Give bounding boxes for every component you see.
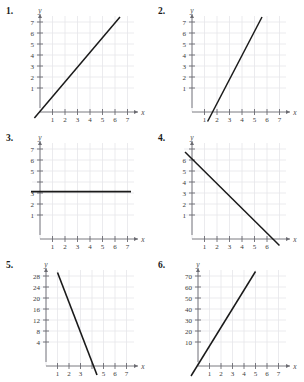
x-tick-labels-1: 1 2 3 4 5 6 7 — [51, 116, 130, 124]
x-tick-label: 3 — [76, 243, 80, 251]
y-tick-label: 8 — [37, 328, 41, 336]
y-tick-label: 1 — [183, 212, 187, 220]
problem-number-1: 1. — [6, 6, 13, 16]
problem-number-4: 4. — [158, 133, 165, 143]
x-tick-label: 2 — [215, 116, 219, 124]
x-axis-label: x — [292, 362, 297, 371]
x-axis-arrow-6 — [286, 364, 290, 368]
y-tick-label: 6 — [31, 157, 35, 165]
x-tick-label: 6 — [265, 370, 269, 378]
x-tick-labels-6: 1 2 3 4 5 6 7 — [208, 370, 281, 378]
y-tick-label: 2 — [31, 74, 35, 82]
y-tick-labels-6: 10 20 30 40 50 60 70 — [185, 273, 193, 347]
x-tick-labels-4: 1 2 3 4 5 6 — [203, 243, 270, 251]
y-axis-label: y — [43, 262, 48, 269]
x-tick-label: 4 — [242, 370, 246, 378]
y-tick-label: 2 — [183, 201, 187, 209]
x-tick-label: 6 — [113, 243, 117, 251]
y-tick-label: 4 — [37, 339, 41, 347]
x-tick-label: 2 — [63, 116, 67, 124]
gridlines-1 — [32, 16, 134, 112]
x-axis-label: x — [140, 362, 145, 371]
y-tick-label: 7 — [183, 19, 187, 27]
gridlines-4 — [184, 143, 286, 239]
x-tick-label: 5 — [102, 370, 106, 378]
axes-2 — [190, 14, 290, 114]
x-tick-labels-3: 1 2 3 4 5 6 7 — [51, 243, 130, 251]
axes-1 — [38, 14, 138, 114]
y-tick-label: 20 — [185, 328, 193, 336]
y-tick-label: 5 — [31, 41, 35, 49]
coordinate-plane-1: 1 2 3 4 5 6 7 1 2 3 4 5 6 7 x — [26, 8, 148, 124]
y-tick-label: 3 — [31, 63, 35, 71]
y-tick-labels-3: 1 2 3 5 6 7 — [31, 146, 35, 220]
y-tick-label: 6 — [183, 157, 187, 165]
y-axis-label: y — [37, 8, 42, 15]
x-tick-label: 1 — [203, 116, 207, 124]
exercise-sheet: 1. — [0, 0, 304, 382]
y-tick-label: 50 — [185, 295, 193, 303]
y-tick-label: 4 — [31, 52, 35, 60]
x-tick-label: 2 — [67, 370, 71, 378]
x-axis-label: x — [140, 108, 145, 117]
ticks-3 — [37, 149, 128, 242]
gridlines-2 — [184, 16, 286, 112]
x-tick-label: 6 — [265, 116, 269, 124]
y-tick-label: 3 — [183, 190, 187, 198]
plot-area-6: 1 2 3 4 5 6 7 10 20 30 40 50 60 70 — [178, 262, 300, 378]
x-tick-label: 4 — [240, 243, 244, 251]
x-tick-label: 4 — [88, 116, 92, 124]
ticks-1 — [37, 22, 128, 115]
x-tick-label: 5 — [101, 116, 105, 124]
y-axis-label: y — [37, 135, 42, 142]
problem-number-5: 5. — [6, 260, 13, 270]
y-axis-label: y — [189, 135, 194, 142]
axes-4 — [190, 141, 290, 241]
y-tick-labels-5: 4 8 12 16 20 24 28 — [33, 273, 41, 347]
graph-cell-6: 6. — [152, 254, 304, 382]
axes-5 — [44, 268, 138, 368]
x-tick-label: 5 — [254, 370, 258, 378]
y-tick-label: 7 — [31, 19, 35, 27]
problem-number-2: 2. — [158, 6, 165, 16]
x-tick-label: 7 — [126, 243, 130, 251]
plotted-line-5 — [58, 273, 98, 376]
x-axis-label: x — [292, 108, 297, 117]
graph-cell-4: 4. — [152, 127, 304, 254]
x-tick-label: 5 — [101, 243, 105, 251]
y-tick-label: 3 — [183, 63, 187, 71]
y-tick-label: 30 — [185, 317, 193, 325]
x-tick-label: 7 — [278, 116, 282, 124]
y-tick-label: 2 — [183, 74, 187, 82]
y-tick-label: 20 — [33, 295, 41, 303]
y-tick-label: 5 — [183, 41, 187, 49]
y-tick-label: 24 — [33, 284, 41, 292]
y-tick-label: 1 — [31, 85, 35, 93]
x-tick-label: 3 — [228, 243, 232, 251]
y-tick-label: 6 — [183, 30, 187, 38]
x-tick-label: 4 — [240, 116, 244, 124]
y-tick-label: 2 — [31, 201, 35, 209]
x-tick-label: 7 — [125, 370, 129, 378]
y-tick-label: 28 — [33, 273, 41, 281]
x-tick-labels-2: 1 2 3 4 5 6 7 — [203, 116, 282, 124]
y-tick-label: 10 — [185, 339, 193, 347]
x-tick-label: 7 — [277, 370, 281, 378]
y-tick-label: 70 — [185, 273, 193, 281]
x-tick-label: 1 — [56, 370, 60, 378]
graph-cell-1: 1. — [0, 0, 152, 127]
y-tick-labels-1: 1 2 3 4 5 6 7 — [31, 19, 35, 93]
ticks-2 — [189, 22, 280, 115]
x-axis-label: x — [292, 235, 297, 244]
axes-6 — [196, 268, 290, 368]
x-tick-label: 1 — [51, 243, 55, 251]
y-tick-labels-2: 1 2 3 4 5 6 7 — [183, 19, 187, 93]
y-tick-label: 4 — [183, 179, 187, 187]
coordinate-plane-2: 1 2 3 4 5 6 7 1 2 3 4 5 6 7 x — [178, 8, 300, 124]
plot-area-2: 1 2 3 4 5 6 7 1 2 3 4 5 6 7 x — [178, 8, 300, 124]
x-tick-label: 2 — [219, 370, 223, 378]
y-tick-label: 4 — [183, 52, 187, 60]
x-tick-label: 6 — [265, 243, 269, 251]
y-axis-label: y — [195, 262, 200, 269]
gridlines-5 — [38, 270, 134, 366]
